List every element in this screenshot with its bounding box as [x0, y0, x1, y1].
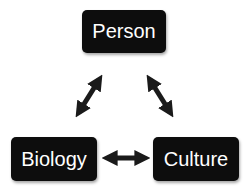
node-biology: Biology: [11, 137, 97, 181]
node-biology-label: Biology: [21, 148, 87, 171]
node-culture: Culture: [153, 137, 239, 181]
node-person-label: Person: [92, 20, 155, 43]
node-culture-label: Culture: [164, 148, 228, 171]
node-person: Person: [82, 10, 166, 53]
arrow-person-culture: [150, 80, 170, 112]
arrow-person-biology: [79, 80, 99, 112]
